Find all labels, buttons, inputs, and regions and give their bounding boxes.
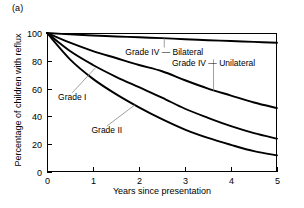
series-annotation-label: Grade II <box>91 125 122 135</box>
y-tick-label: 100 <box>27 29 42 39</box>
x-tick-label: 5 <box>275 176 280 186</box>
y-axis-label: Percentage of children with reflux <box>13 20 23 180</box>
x-tick-label: 4 <box>229 176 234 186</box>
chart-plot-area: 012345020406080100Grade IV — BilateralGr… <box>0 0 304 208</box>
y-tick-label: 40 <box>32 112 42 122</box>
y-tick-label: 60 <box>32 85 42 95</box>
x-tick-label: 1 <box>91 176 96 186</box>
panel-label: (a) <box>12 3 23 13</box>
series-curve <box>47 33 277 43</box>
series-annotation-label: Grade IV — Bilateral <box>125 47 203 57</box>
series-annotation-label: Grade IV — Unilateral <box>172 58 255 68</box>
x-axis-label: Years since presentation <box>47 186 277 196</box>
x-tick-label: 0 <box>45 176 50 186</box>
y-tick-label: 0 <box>37 168 42 178</box>
x-tick-label: 3 <box>183 176 188 186</box>
x-tick-label: 2 <box>137 176 142 186</box>
figure-panel: (a) Percentage of children with reflux Y… <box>0 0 304 208</box>
annotation-leader-line <box>107 105 136 126</box>
y-tick-label: 80 <box>32 57 42 67</box>
y-tick-label: 20 <box>32 140 42 150</box>
series-annotation-label: Grade I <box>58 92 86 102</box>
